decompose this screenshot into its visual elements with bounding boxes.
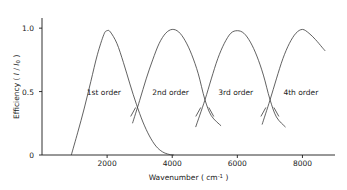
- crossing-tail: [274, 107, 279, 116]
- y-axis-title-slash: /: [12, 65, 21, 72]
- curve-label-1st-order: 1st order: [87, 87, 121, 96]
- curve-2nd-order: [133, 29, 222, 125]
- y-axis-tick-label: 0: [8, 151, 34, 160]
- y-axis-title-subscript: 0: [15, 60, 21, 63]
- y-axis-title-text: Efficiency (: [12, 75, 21, 119]
- crossing-tail-group: [131, 107, 279, 116]
- x-axis-title-tail: ): [223, 173, 228, 182]
- y-axis-title: Efficiency ( I / I0 ): [12, 54, 21, 118]
- x-axis-tick-label: 6000: [228, 159, 247, 168]
- curve-label-4th-order: 4th order: [283, 87, 318, 96]
- curve-label-2nd-order: 2nd order: [152, 87, 189, 96]
- figure-efficiency-vs-wavenumber: 00.51.0 2000400060008000 1st order2nd or…: [0, 0, 347, 190]
- y-axis-title-tail: ): [12, 54, 21, 59]
- y-axis-tick-label: 1.0: [8, 24, 34, 33]
- x-axis-tick-label: 2000: [98, 159, 117, 168]
- x-axis-tick-label: 8000: [293, 159, 312, 168]
- x-axis-tick-label: 4000: [163, 159, 182, 168]
- x-axis-title-text: Wavenumber ( cm: [149, 173, 218, 182]
- curve-4th-order: [262, 29, 325, 124]
- x-axis-title: Wavenumber ( cm-1 ): [149, 173, 229, 182]
- curve-label-3rd-order: 3rd order: [218, 87, 253, 96]
- curve-3rd-order: [196, 31, 286, 127]
